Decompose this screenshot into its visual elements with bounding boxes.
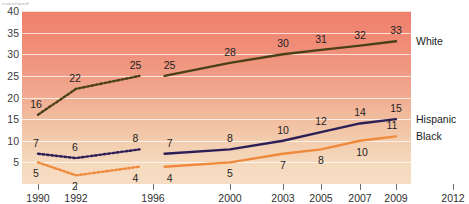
- data-value-label: 10: [277, 124, 289, 135]
- x-axis-label: 1996: [141, 192, 164, 204]
- x-axis-tick: [153, 184, 154, 190]
- x-axis-tick: [283, 184, 284, 190]
- data-value-label: 8: [227, 133, 233, 144]
- x-axis-tick: [38, 184, 39, 190]
- data-value-label: 7: [280, 159, 286, 170]
- x-axis-label: 2000: [218, 192, 241, 204]
- legend-item-hispanic[interactable]: Hispanic: [416, 113, 456, 125]
- data-value-label: 4: [167, 172, 173, 183]
- data-value-label: 30: [277, 38, 289, 49]
- x-axis-tick: [230, 184, 231, 190]
- chart-container: percent 510152025303540 1622252528303132…: [0, 0, 469, 204]
- series-line-dashed-white: [38, 76, 140, 115]
- data-value-label: 25: [130, 59, 142, 70]
- data-value-label: 11: [387, 120, 398, 131]
- x-axis-label: 2005: [309, 192, 332, 204]
- legend-item-black[interactable]: Black: [416, 130, 442, 142]
- x-axis-label: 2003: [271, 192, 294, 204]
- x-axis-tick: [396, 184, 397, 190]
- x-axis-tick: [453, 184, 454, 190]
- x-axis-tick: [360, 184, 361, 190]
- data-value-label: 28: [224, 46, 236, 57]
- data-value-label: 7: [33, 137, 39, 148]
- x-axis-label: 2009: [384, 192, 407, 204]
- series-line-dashed-hispanic: [38, 149, 140, 158]
- data-value-label: 22: [69, 72, 81, 83]
- data-value-label: 33: [390, 25, 402, 36]
- data-value-label: 16: [30, 98, 42, 109]
- data-value-label: 15: [390, 103, 402, 114]
- data-value-label: 8: [133, 133, 139, 144]
- x-axis: 199019921996200020032005200720092012: [0, 184, 469, 204]
- data-value-label: 5: [227, 168, 233, 179]
- data-value-label: 32: [354, 29, 366, 40]
- x-axis-label: 1992: [64, 192, 87, 204]
- series-line-dashed-black: [38, 162, 140, 175]
- x-axis-label: 2012: [441, 192, 464, 204]
- x-axis-tick: [321, 184, 322, 190]
- data-value-label: 4: [133, 172, 139, 183]
- x-axis-tick: [76, 184, 77, 190]
- legend-item-white[interactable]: White: [416, 35, 443, 47]
- data-value-label: 14: [354, 107, 366, 118]
- data-value-label: 5: [33, 168, 39, 179]
- data-value-label: 31: [315, 33, 327, 44]
- x-axis-label: 2007: [348, 192, 371, 204]
- data-value-label: 8: [318, 155, 324, 166]
- data-value-label: 12: [315, 116, 327, 127]
- x-axis-label: 1990: [26, 192, 49, 204]
- data-value-label: 10: [356, 146, 368, 157]
- data-value-label: 25: [164, 59, 176, 70]
- data-value-label: 7: [167, 137, 173, 148]
- data-value-label: 6: [72, 142, 78, 153]
